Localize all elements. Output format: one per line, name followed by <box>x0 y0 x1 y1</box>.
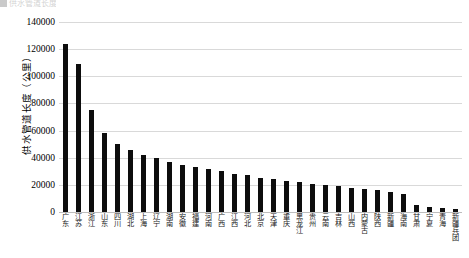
bar-slot <box>267 22 280 212</box>
x-axis-tick-label: 福建 <box>192 213 199 227</box>
x-axis-tick-label: 四川 <box>114 213 121 227</box>
x-axis-tick-label: 河北 <box>244 213 251 227</box>
bar <box>180 165 185 213</box>
bar-slot <box>150 22 163 212</box>
bar <box>349 188 354 212</box>
bar <box>453 209 458 212</box>
bar-slot <box>410 22 423 212</box>
x-label-slot: 重庆 <box>280 213 293 258</box>
bar-slot <box>111 22 124 212</box>
x-axis-tick-label: 江苏 <box>75 213 82 227</box>
x-axis-tick-label: 浙江 <box>88 213 95 227</box>
x-axis-tick-label: 重庆 <box>283 213 290 227</box>
bar-slot <box>72 22 85 212</box>
x-axis-tick-labels: 广东江苏浙江山东四川湖北上海辽宁湖南安徽福建河南广西江西河北北京天津重庆黑龙江贵… <box>59 213 462 258</box>
bar-slot <box>371 22 384 212</box>
bar <box>76 64 81 212</box>
bar-slot <box>358 22 371 212</box>
x-label-slot: 青海 <box>436 213 449 258</box>
bar <box>375 190 380 212</box>
x-label-slot: 安徽 <box>176 213 189 258</box>
bar <box>401 194 406 212</box>
bar-slot <box>345 22 358 212</box>
bar <box>219 171 224 212</box>
bar-slot <box>202 22 215 212</box>
x-label-slot: 云南 <box>319 213 332 258</box>
y-axis-tick-labels: 140000120000100000800006000040000200000 <box>0 22 55 212</box>
bar <box>440 208 445 212</box>
bar-slot <box>319 22 332 212</box>
bar-slot <box>241 22 254 212</box>
bar <box>193 167 198 212</box>
bar <box>245 175 250 212</box>
x-label-slot: 北京 <box>254 213 267 258</box>
x-label-slot: 天津 <box>267 213 280 258</box>
bar <box>310 184 315 213</box>
bar <box>63 44 68 212</box>
bar-slot <box>98 22 111 212</box>
x-label-slot: 河北 <box>241 213 254 258</box>
x-axis-tick-label: 河南 <box>205 213 212 227</box>
bar <box>154 158 159 212</box>
bar <box>206 169 211 212</box>
bar-series <box>59 22 462 212</box>
bar-slot <box>215 22 228 212</box>
y-axis-tick-label: 60000 <box>3 127 55 137</box>
bar-slot <box>423 22 436 212</box>
bar <box>115 144 120 212</box>
bar <box>414 205 419 212</box>
legend-label: 供水管道长度 <box>9 0 56 7</box>
x-axis-tick-label: 北京 <box>257 213 264 227</box>
bar <box>102 133 107 212</box>
x-label-slot: 内蒙古 <box>358 213 371 258</box>
x-axis-tick-label: 湖南 <box>166 213 173 227</box>
x-axis-tick-label: 天津 <box>270 213 277 227</box>
bar <box>232 174 237 212</box>
bar-slot <box>189 22 202 212</box>
bar-slot <box>436 22 449 212</box>
bar-slot <box>397 22 410 212</box>
x-label-slot: 宁夏 <box>423 213 436 258</box>
x-axis-tick-label: 海南 <box>400 213 407 227</box>
bar <box>258 178 263 212</box>
bar <box>323 185 328 212</box>
bar-slot <box>306 22 319 212</box>
x-label-slot: 四川 <box>111 213 124 258</box>
bar-slot <box>254 22 267 212</box>
x-label-slot: 黑龙江 <box>293 213 306 258</box>
y-axis-tick-label: 100000 <box>3 72 55 82</box>
bar-slot <box>124 22 137 212</box>
x-axis-tick-label: 湖北 <box>127 213 134 227</box>
x-label-slot: 山西 <box>345 213 358 258</box>
x-axis-tick-label: 青海 <box>439 213 446 227</box>
x-label-slot: 辽宁 <box>150 213 163 258</box>
x-axis-tick-label: 山东 <box>101 213 108 227</box>
x-label-slot: 湖北 <box>124 213 137 258</box>
x-axis-tick-label: 新疆兵团 <box>452 213 459 241</box>
bar <box>336 186 341 212</box>
x-label-slot: 湖南 <box>163 213 176 258</box>
bar-slot <box>59 22 72 212</box>
x-axis-tick-label: 江西 <box>231 213 238 227</box>
bar <box>128 150 133 212</box>
x-label-slot: 福建 <box>189 213 202 258</box>
x-axis-tick-label: 新疆 <box>387 213 394 227</box>
bar <box>167 162 172 212</box>
bar <box>141 155 146 212</box>
bar <box>388 192 393 212</box>
x-label-slot: 甘肃 <box>410 213 423 258</box>
x-axis-tick-label: 广西 <box>218 213 225 227</box>
y-axis-tick-label: 40000 <box>3 154 55 164</box>
y-axis-tick-label: 0 <box>3 208 55 218</box>
x-axis-tick-label: 广东 <box>62 213 69 227</box>
y-axis-tick-label: 80000 <box>3 99 55 109</box>
y-axis-tick-label: 20000 <box>3 181 55 191</box>
x-label-slot: 陕西 <box>371 213 384 258</box>
x-axis-tick-label: 贵州 <box>309 213 316 227</box>
x-label-slot: 上海 <box>137 213 150 258</box>
x-label-slot: 新疆 <box>384 213 397 258</box>
x-axis-tick-label: 甘肃 <box>413 213 420 227</box>
x-axis-tick-label: 上海 <box>140 213 147 227</box>
x-label-slot: 广东 <box>59 213 72 258</box>
bar <box>297 182 302 212</box>
